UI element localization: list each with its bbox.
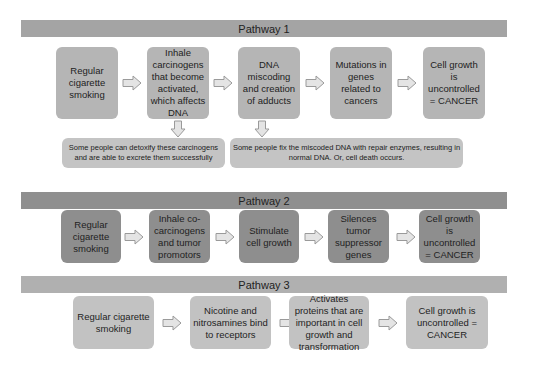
pathway-1-step-3: DNA miscoding and creation of adducts [238, 47, 300, 119]
right-arrow-icon [397, 75, 417, 91]
right-arrow-icon [122, 75, 142, 91]
pathway-2-step-2: Inhale co-carcinogens and tumor promotor… [149, 210, 210, 263]
pathway-2-step-1: Regular cigarette smoking [61, 210, 121, 263]
right-arrow-icon [215, 229, 235, 245]
pathway-3-step-2: Nicotine and nitrosamines bind to recept… [190, 296, 271, 349]
pathway-3-step-4: Cell growth is uncontrolled = CANCER [406, 296, 488, 349]
pathway-1-step-2: Inhale carcinogens that become activated… [147, 47, 209, 119]
pathway-3-header: Pathway 3 [21, 276, 507, 293]
right-arrow-icon [378, 315, 398, 331]
pathway-1-title: Pathway 1 [238, 23, 289, 35]
pathway-1-step-4: Mutations in genes related to cancers [330, 47, 392, 119]
pathway-3-step-1: Regular cigarette smoking [73, 296, 154, 349]
pathway-3-title: Pathway 3 [238, 279, 289, 291]
pathway-2-step-5: Cell growth is uncontrolled = CANCER [419, 210, 480, 263]
right-arrow-icon [124, 229, 144, 245]
pathway-2-header: Pathway 2 [21, 192, 507, 209]
pathway-3-step-3: Activates proteins that are important in… [289, 296, 369, 349]
right-arrow-icon [305, 75, 325, 91]
pathway-2-step-4: Silences tumor suppressor genes [328, 210, 389, 263]
pathway-1-note-detoxify: Some people can detoxify these carcinoge… [62, 138, 225, 168]
pathway-1-note-repair: Some people fix the miscoded DNA with re… [230, 138, 463, 168]
pathway-1-step-5: Cell growth is uncontrolled = CANCER [423, 47, 485, 119]
pathway-1-header: Pathway 1 [21, 20, 507, 37]
right-arrow-icon [162, 315, 182, 331]
down-arrow-icon [170, 120, 186, 138]
pathway-2-step-3: Stimulate cell growth [239, 210, 299, 263]
down-arrow-icon [254, 120, 270, 138]
right-arrow-icon [304, 229, 324, 245]
right-arrow-icon [213, 75, 233, 91]
pathway-1-step-1: Regular cigarette smoking [56, 47, 118, 119]
pathway-2-title: Pathway 2 [238, 195, 289, 207]
right-arrow-icon [396, 229, 416, 245]
